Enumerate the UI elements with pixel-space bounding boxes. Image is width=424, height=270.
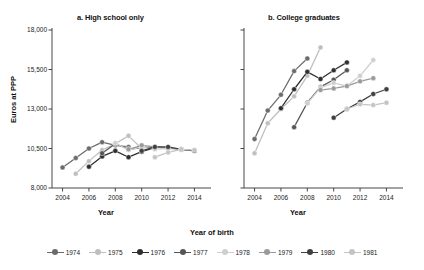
legend-label: 1977 <box>193 249 207 256</box>
data-point <box>126 155 131 160</box>
legend-label: 1978 <box>236 249 250 256</box>
data-point <box>60 165 65 170</box>
legend-item-1974[interactable]: 1974 <box>47 248 80 256</box>
legend-item-1978[interactable]: 1978 <box>217 248 250 256</box>
data-point <box>179 147 184 152</box>
data-point <box>252 151 257 156</box>
data-point <box>331 68 336 73</box>
data-point <box>344 84 349 89</box>
legend-item-1976[interactable]: 1976 <box>132 248 165 256</box>
data-point <box>86 164 91 169</box>
data-point <box>265 108 270 113</box>
data-point <box>344 107 349 112</box>
data-point <box>166 144 171 149</box>
data-point <box>73 171 78 176</box>
legend: 19741975197619771978197919801981 <box>0 248 424 256</box>
x-tick-label: 2008 <box>294 194 320 201</box>
figure-container: a. High school only b. College graduates… <box>0 0 424 270</box>
data-point <box>331 115 336 120</box>
legend-item-1979[interactable]: 1979 <box>259 248 292 256</box>
data-point <box>384 87 389 92</box>
data-point <box>371 76 376 81</box>
series-1974 <box>252 56 310 142</box>
data-point <box>344 68 349 73</box>
legend-marker-icon <box>47 248 64 256</box>
data-point <box>318 88 323 93</box>
series-1975 <box>252 45 323 156</box>
legend-title: Year of birth <box>0 228 424 237</box>
x-tick-label: 2008 <box>102 194 128 201</box>
x-tick-label: 2004 <box>50 194 76 201</box>
series-line <box>76 136 142 174</box>
data-point <box>113 140 118 145</box>
panel-b-title: b. College graduates <box>268 13 340 22</box>
legend-dot-icon <box>95 249 101 255</box>
legend-marker-icon <box>344 248 361 256</box>
series-1981 <box>344 100 389 111</box>
y-axis-label: Euros at PPP <box>9 65 18 135</box>
x-tick-label: 2010 <box>321 194 347 201</box>
data-point <box>371 58 376 63</box>
series-line <box>89 148 155 167</box>
legend-label: 1975 <box>108 249 122 256</box>
data-point <box>152 155 157 160</box>
legend-dot-icon <box>52 249 58 255</box>
data-point <box>73 155 78 160</box>
legend-dot-icon <box>180 249 186 255</box>
y-tick-label: 13,000 <box>13 105 47 112</box>
legend-label: 1974 <box>66 249 80 256</box>
data-point <box>305 101 310 106</box>
x-tick-label: 2006 <box>76 194 102 201</box>
data-point <box>166 150 171 155</box>
x-axis-label-panel-a: Year <box>98 208 114 217</box>
legend-dot-icon <box>137 249 143 255</box>
legend-marker-icon <box>217 248 234 256</box>
data-point <box>384 100 389 105</box>
data-point <box>192 148 197 153</box>
x-tick-label: 2006 <box>268 194 294 201</box>
x-axis-label-panel-b: Year <box>290 208 306 217</box>
data-point <box>358 79 363 84</box>
x-tick-label: 2014 <box>181 194 207 201</box>
legend-dot-icon <box>349 249 355 255</box>
legend-item-1977[interactable]: 1977 <box>174 248 207 256</box>
data-point <box>344 60 349 65</box>
data-point <box>371 103 376 108</box>
legend-marker-icon <box>259 248 276 256</box>
data-point <box>331 86 336 91</box>
data-point <box>100 151 105 156</box>
series-line <box>281 62 347 108</box>
data-point <box>86 159 91 164</box>
series-line <box>255 58 308 139</box>
legend-label: 1976 <box>151 249 165 256</box>
x-tick-label: 2004 <box>242 194 268 201</box>
data-point <box>371 91 376 96</box>
legend-item-1975[interactable]: 1975 <box>89 248 122 256</box>
data-point <box>292 94 297 99</box>
data-point <box>100 140 105 145</box>
data-point <box>86 146 91 151</box>
legend-label: 1979 <box>278 249 292 256</box>
x-tick-label: 2010 <box>129 194 155 201</box>
data-point <box>292 87 297 92</box>
x-tick-label: 2014 <box>373 194 399 201</box>
data-point <box>318 76 323 81</box>
legend-item-1981[interactable]: 1981 <box>344 248 377 256</box>
data-point <box>139 143 144 148</box>
panel-a-title: a. High school only <box>77 13 144 22</box>
data-point <box>358 73 363 78</box>
data-point <box>305 56 310 61</box>
data-point <box>278 92 283 97</box>
x-tick-label: 2012 <box>155 194 181 201</box>
data-point <box>305 69 310 74</box>
legend-item-1980[interactable]: 1980 <box>301 248 334 256</box>
data-point <box>126 133 131 138</box>
legend-dot-icon <box>222 249 228 255</box>
legend-marker-icon <box>132 248 149 256</box>
data-point <box>265 121 270 126</box>
data-point <box>252 137 257 142</box>
data-point <box>139 148 144 153</box>
data-point <box>292 69 297 74</box>
legend-marker-icon <box>174 248 191 256</box>
data-point <box>278 106 283 111</box>
